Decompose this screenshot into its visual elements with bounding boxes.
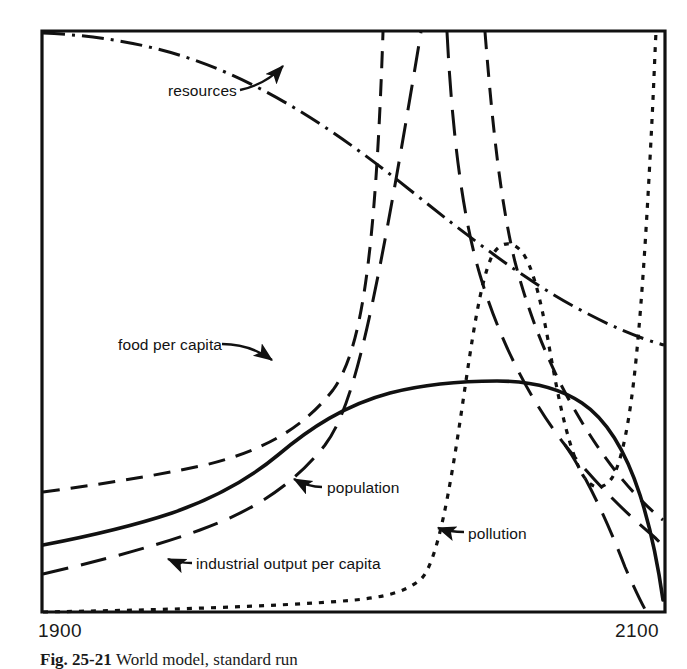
annotation-label-population: population <box>327 479 400 497</box>
x-axis-end-label: 2100 <box>615 620 659 642</box>
food-per-capita-leader-arrow <box>222 344 272 360</box>
series-resources <box>43 33 664 345</box>
annotation-label-food-per-capita: food per capita <box>118 336 222 354</box>
pollution-leader-arrow <box>438 528 464 532</box>
annotation-leaders <box>168 66 464 563</box>
series-food-per-capita <box>43 32 663 520</box>
industrial-output-line-tail <box>565 445 646 611</box>
figure-root: 1900 2100 resources food per capita popu… <box>0 0 687 669</box>
food-per-capita-line-falling <box>485 32 663 520</box>
figure-caption-text: World model, standard run <box>116 650 298 669</box>
annotation-label-resources: resources <box>168 82 237 100</box>
annotation-label-pollution: pollution <box>468 525 527 543</box>
annotation-label-industrial-output: industrial output per capita <box>196 555 381 573</box>
industrial-output-leader-arrow <box>168 559 192 563</box>
population-leader-arrow <box>294 479 322 487</box>
food-per-capita-line-rising <box>43 32 383 492</box>
resources-leader-arrow <box>240 66 283 90</box>
figure-caption: Fig. 25-21 World model, standard run <box>40 650 298 669</box>
figure-caption-number: Fig. 25-21 <box>40 650 112 669</box>
x-axis-start-label: 1900 <box>38 620 82 642</box>
resources-line <box>43 33 664 345</box>
